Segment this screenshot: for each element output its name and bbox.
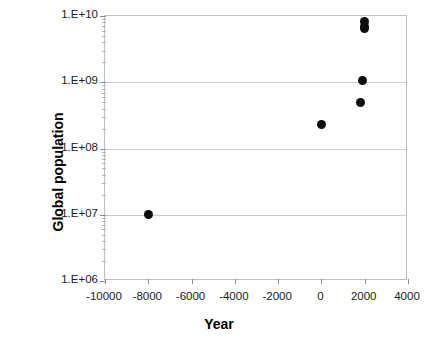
y-minor-tick-mark bbox=[102, 36, 106, 37]
y-minor-tick-mark bbox=[102, 97, 106, 98]
x-tick-label: 2000 bbox=[351, 291, 377, 303]
y-minor-tick-mark bbox=[102, 22, 106, 23]
y-tick-label: 1.E+07 bbox=[36, 208, 98, 220]
y-minor-tick-mark bbox=[102, 152, 106, 153]
data-point bbox=[144, 210, 153, 219]
y-tick-mark bbox=[100, 149, 106, 150]
y-tick-mark bbox=[100, 82, 106, 83]
data-point bbox=[317, 120, 326, 129]
x-tick-label: 4000 bbox=[394, 291, 420, 303]
x-axis-title: Year bbox=[0, 316, 438, 332]
data-point bbox=[358, 76, 367, 85]
y-minor-tick-mark bbox=[102, 261, 106, 262]
y-minor-tick-mark bbox=[102, 31, 106, 32]
y-tick-mark bbox=[100, 16, 106, 17]
y-tick-label: 1.E+08 bbox=[36, 142, 98, 154]
y-minor-tick-mark bbox=[102, 235, 106, 236]
y-minor-tick-mark bbox=[102, 129, 106, 130]
x-tick-label: -4000 bbox=[219, 291, 248, 303]
y-minor-tick-mark bbox=[102, 225, 106, 226]
y-minor-tick-mark bbox=[102, 102, 106, 103]
y-minor-tick-mark bbox=[102, 19, 106, 20]
y-minor-tick-mark bbox=[102, 117, 106, 118]
y-minor-tick-mark bbox=[102, 109, 106, 110]
y-minor-tick-mark bbox=[102, 159, 106, 160]
y-tick-label: 1.E+06 bbox=[36, 274, 98, 286]
x-tick-mark bbox=[278, 279, 279, 284]
x-tick-mark bbox=[192, 279, 193, 284]
y-minor-tick-mark bbox=[102, 42, 106, 43]
y-tick-label: 1.E+10 bbox=[36, 9, 98, 21]
y-minor-tick-mark bbox=[102, 218, 106, 219]
y-minor-tick-mark bbox=[102, 93, 106, 94]
y-minor-tick-mark bbox=[102, 168, 106, 169]
y-minor-tick-mark bbox=[102, 175, 106, 176]
y-tick-mark bbox=[100, 215, 106, 216]
x-tick-mark bbox=[408, 279, 409, 284]
x-tick-label: -6000 bbox=[176, 291, 205, 303]
y-minor-tick-mark bbox=[102, 249, 106, 250]
x-tick-mark bbox=[148, 279, 149, 284]
x-tick-label: -8000 bbox=[133, 291, 162, 303]
scatter-chart: Global population 1.E+101.E+091.E+081.E+… bbox=[0, 0, 438, 344]
y-minor-tick-mark bbox=[102, 26, 106, 27]
y-minor-tick-mark bbox=[102, 155, 106, 156]
x-tick-label: -2000 bbox=[262, 291, 291, 303]
y-minor-tick-mark bbox=[102, 85, 106, 86]
x-tick-mark bbox=[365, 279, 366, 284]
y-minor-tick-mark bbox=[102, 229, 106, 230]
y-minor-tick-mark bbox=[102, 241, 106, 242]
y-minor-tick-mark bbox=[102, 89, 106, 90]
y-minor-tick-mark bbox=[102, 195, 106, 196]
x-tick-mark bbox=[105, 279, 106, 284]
x-tick-label: -10000 bbox=[86, 291, 122, 303]
gridline bbox=[105, 149, 406, 150]
x-tick-label: 0 bbox=[317, 291, 323, 303]
y-minor-tick-mark bbox=[102, 62, 106, 63]
x-tick-mark bbox=[321, 279, 322, 284]
y-minor-tick-mark bbox=[102, 163, 106, 164]
y-minor-tick-mark bbox=[102, 51, 106, 52]
plot-area bbox=[104, 15, 407, 280]
y-minor-tick-mark bbox=[102, 183, 106, 184]
y-minor-tick-mark bbox=[102, 221, 106, 222]
x-tick-mark bbox=[235, 279, 236, 284]
y-tick-label: 1.E+09 bbox=[36, 75, 98, 87]
data-point bbox=[356, 98, 365, 107]
